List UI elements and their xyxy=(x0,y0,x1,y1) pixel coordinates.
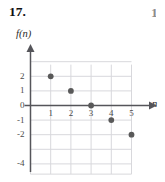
y-tick-label: -2 xyxy=(13,130,25,139)
data-point xyxy=(108,117,114,123)
data-point xyxy=(48,73,54,79)
figure-container: 17. 1 f(n) n 210-1-2-412345 xyxy=(0,0,165,182)
x-tick-label: 1 xyxy=(45,109,57,118)
y-tick-label: 2 xyxy=(13,72,25,81)
x-axis-arrowhead xyxy=(149,102,157,110)
x-tick-label: 2 xyxy=(65,109,77,118)
y-tick-label: 0 xyxy=(13,101,25,110)
scatter-plot xyxy=(0,0,165,182)
x-tick-label: 4 xyxy=(105,109,117,118)
data-point xyxy=(129,132,135,138)
grid-lines xyxy=(31,62,132,174)
x-tick-label: 3 xyxy=(85,109,97,118)
y-tick-label: -4 xyxy=(13,159,25,168)
y-tick-label: 1 xyxy=(13,86,25,95)
x-tick-label: 5 xyxy=(126,109,138,118)
y-tick-label: -1 xyxy=(13,116,25,125)
y-axis-arrowhead xyxy=(27,44,35,52)
data-point xyxy=(68,88,74,94)
